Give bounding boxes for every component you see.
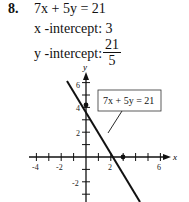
x-tick-label: -4 (32, 163, 39, 172)
x-tick-label: -2 (56, 163, 63, 172)
x-tick-label: 2 (108, 163, 112, 172)
x-axis-arrow-icon (163, 154, 171, 160)
graph: x y -4 -2 2 6 6 4 2 -2 (0, 0, 189, 202)
y-tick-label: 6 (76, 81, 80, 90)
y-tick-label: 4 (76, 104, 80, 113)
y-axis-label: y (82, 62, 87, 72)
annotation-text: 7x + 5y = 21 (103, 95, 154, 106)
callout-leader (108, 111, 122, 133)
y-tick-label: 2 (76, 129, 80, 138)
y-intercept-point (84, 103, 89, 108)
x-tick-label: 6 (157, 163, 161, 172)
y-tick-label: -2 (72, 179, 79, 188)
x-intercept-point (121, 155, 126, 160)
x-axis-label: x (172, 152, 177, 162)
y-axis-arrow-icon (83, 72, 89, 80)
